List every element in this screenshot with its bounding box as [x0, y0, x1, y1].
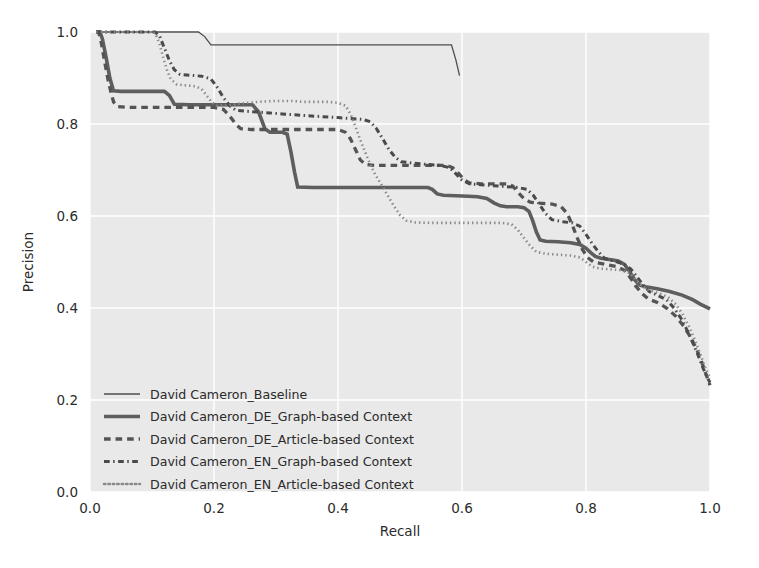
y-tick-label-5: 1.0: [57, 24, 78, 40]
x-tick-label-1: 0.2: [203, 500, 224, 516]
chart-canvas: 0.00.20.40.60.81.0 0.00.20.40.60.81.0 Re…: [0, 0, 759, 568]
legend-label-3: David Cameron_EN_Graph-based Context: [150, 454, 412, 469]
legend-label-4: David Cameron_EN_Article-based Context: [150, 477, 414, 492]
y-axis-title: Precision: [20, 232, 36, 292]
x-axis-title: Recall: [380, 523, 420, 539]
x-tick-label-5: 1.0: [699, 500, 720, 516]
legend-label-0: David Cameron_Baseline: [150, 387, 307, 402]
y-tick-label-1: 0.2: [57, 392, 78, 408]
x-tick-label-0: 0.0: [79, 500, 100, 516]
x-tick-label-2: 0.4: [327, 500, 348, 516]
y-tick-label-3: 0.6: [57, 208, 78, 224]
precision-recall-figure: 0.00.20.40.60.81.0 0.00.20.40.60.81.0 Re…: [0, 0, 759, 568]
legend-label-2: David Cameron_DE_Article-based Context: [150, 432, 414, 447]
y-tick-label-0: 0.0: [57, 484, 78, 500]
x-tick-label-3: 0.6: [451, 500, 472, 516]
x-tick-label-4: 0.8: [575, 500, 596, 516]
legend-label-1: David Cameron_DE_Graph-based Context: [150, 409, 412, 424]
y-tick-label-2: 0.4: [57, 300, 78, 316]
y-tick-label-4: 0.8: [57, 116, 78, 132]
